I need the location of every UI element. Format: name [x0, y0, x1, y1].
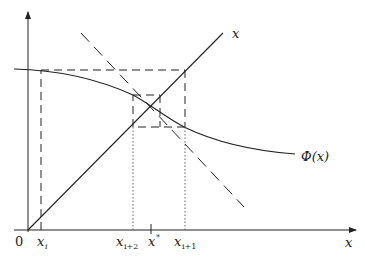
tick-label-x-i: x i: [37, 234, 48, 251]
x-axis-label: x: [345, 235, 353, 250]
cobweb-diagram: x Φ(x) x 0 x i x i+2 x * x i+1: [0, 0, 365, 260]
tick-label-x-i-plus-1: x i+1: [174, 234, 196, 251]
cobweb-path: [41, 70, 185, 230]
phi-curve: [14, 69, 295, 154]
tick-label-x-star: x *: [148, 233, 160, 249]
svg-text:*: *: [156, 233, 160, 242]
dashed-tangent-line: [81, 33, 244, 207]
svg-text:i: i: [45, 242, 48, 251]
svg-text:x: x: [116, 234, 124, 249]
svg-text:x: x: [174, 234, 182, 249]
dotted-guides: [133, 127, 185, 230]
tick-label-x-i-plus-2: x i+2: [116, 234, 138, 251]
svg-text:i+1: i+1: [182, 242, 196, 251]
curve-label: Φ(x): [301, 149, 329, 164]
svg-text:x: x: [37, 234, 45, 249]
svg-text:i+2: i+2: [124, 242, 138, 251]
origin-label: 0: [15, 234, 23, 249]
diagonal-label: x: [232, 26, 240, 41]
svg-text:x: x: [148, 234, 156, 249]
